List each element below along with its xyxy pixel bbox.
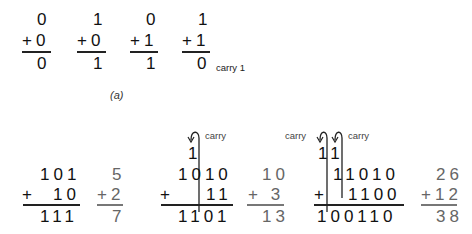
binary-bottom: 11	[206, 186, 232, 203]
plus-sign: +	[22, 186, 36, 203]
sum-result: 0	[197, 55, 210, 72]
decimal-result: 7	[112, 208, 125, 225]
binary-top: 101	[40, 166, 80, 183]
decimal-result: 13	[262, 208, 289, 225]
sum-result: 1	[146, 55, 159, 72]
addend-bottom: +0	[22, 32, 49, 49]
addend-top: 0	[146, 11, 159, 28]
decimal-top: 26	[436, 166, 463, 183]
addend-bottom: +1	[130, 32, 157, 49]
carry-digits: 1	[188, 145, 201, 162]
sum-rule	[182, 51, 210, 53]
decimal-rule	[421, 204, 457, 206]
carry-label: carry	[205, 131, 226, 141]
decimal-bottom: + 3	[248, 186, 284, 203]
binary-top: 1010	[178, 166, 232, 183]
decimal-top: 5	[112, 166, 125, 183]
addend-bottom: +1	[182, 32, 209, 49]
binary-result: 111	[40, 208, 78, 225]
addend-bottom: +0	[77, 32, 104, 49]
decimal-result: 38	[436, 208, 463, 225]
decimal-top: 10	[262, 166, 289, 183]
sum-result: 1	[93, 55, 106, 72]
sum-rule	[314, 204, 404, 206]
decimal-bottom: +12	[421, 186, 462, 203]
sum-rule	[161, 204, 233, 206]
carry-label: carry	[348, 131, 369, 141]
binary-result: 1101	[178, 208, 231, 225]
caption-a: (a)	[110, 89, 123, 101]
decimal-bottom: +2	[97, 186, 124, 203]
addend-top: 0	[37, 11, 50, 28]
carry-digits: 11	[318, 145, 344, 162]
plus-sign: +	[314, 186, 328, 203]
sum-result: 0	[37, 55, 50, 72]
sum-rule	[23, 204, 80, 206]
decimal-rule	[247, 204, 284, 206]
sum-rule	[22, 51, 51, 53]
binary-top: 11010	[333, 166, 399, 183]
carry-note: carry 1	[216, 63, 245, 73]
carry-label: carry	[285, 131, 306, 141]
decimal-rule	[97, 204, 123, 206]
binary-bottom: 1100	[348, 186, 401, 203]
addend-top: 1	[198, 11, 211, 28]
addend-top: 1	[93, 11, 106, 28]
binary-result: 100110	[317, 208, 396, 225]
binary-bottom: 10	[53, 186, 80, 203]
plus-sign: +	[160, 186, 174, 203]
sum-rule	[77, 51, 106, 53]
sum-rule	[130, 51, 158, 53]
